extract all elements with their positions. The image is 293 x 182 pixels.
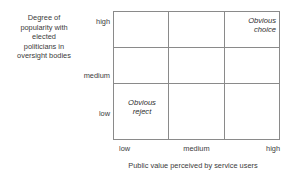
cell-label-obvious-choice-line-1: Obvious — [226, 16, 276, 25]
cell-label-obvious-reject: Obvious reject — [116, 98, 168, 117]
y-axis-title-line-4: politicians in — [2, 42, 86, 52]
grid-line-vertical-2 — [224, 12, 225, 139]
y-axis-title-line-5: oversight bodies — [2, 51, 86, 61]
y-axis-tick-medium: medium — [50, 71, 110, 80]
grid-line-vertical-1 — [168, 12, 169, 139]
cell-label-obvious-reject-line-1: Obvious — [116, 98, 168, 107]
x-axis-tick-high: high — [113, 144, 281, 153]
cell-label-obvious-choice-line-2: choice — [226, 25, 276, 34]
y-axis-tick-low: low — [50, 109, 110, 118]
plot-grid: Obvious choice Obvious reject — [113, 11, 280, 140]
matrix-diagram: Degree of popularity with elected politi… — [0, 0, 293, 182]
grid-line-horizontal-1 — [114, 47, 279, 48]
cell-label-obvious-choice: Obvious choice — [226, 16, 279, 35]
y-axis-title-line-3: elected — [2, 32, 86, 42]
x-axis-title: Public value perceived by service users — [93, 161, 293, 170]
cell-label-obvious-reject-line-2: reject — [116, 107, 168, 116]
grid-line-horizontal-2 — [114, 83, 279, 84]
x-axis-tick-row: low medium high — [113, 144, 280, 154]
y-axis-tick-high: high — [50, 17, 110, 26]
